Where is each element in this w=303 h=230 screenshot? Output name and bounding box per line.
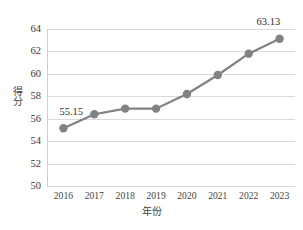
y-tick-label: 58 <box>31 91 42 101</box>
data-point-2017 <box>90 110 98 118</box>
y-axis-tick-labels: 5052545658606264 <box>0 0 43 230</box>
x-axis-title: 年份 <box>0 206 303 217</box>
y-tick-label: 54 <box>31 136 42 146</box>
series-markers <box>59 35 284 133</box>
y-tick-label: 50 <box>31 181 42 191</box>
gridline <box>48 186 295 187</box>
series-line-score <box>48 29 295 186</box>
data-label-2023: 63.13 <box>257 16 281 27</box>
line-chart: 得分 5052545658606264 20162017201820192020… <box>0 0 303 230</box>
data-point-2016 <box>59 124 67 132</box>
data-point-2022 <box>244 49 252 57</box>
data-point-2020 <box>183 90 191 98</box>
data-point-2021 <box>214 71 222 79</box>
y-tick-label: 52 <box>31 159 42 169</box>
y-tick-label: 60 <box>31 69 42 79</box>
y-tick-label: 64 <box>31 24 42 34</box>
x-tick-label: 2023 <box>260 191 300 201</box>
y-tick-label: 56 <box>31 114 42 124</box>
plot-area <box>48 29 295 186</box>
data-point-2023 <box>275 35 283 43</box>
data-point-2018 <box>121 104 129 112</box>
data-label-2016: 55.15 <box>59 106 83 117</box>
y-tick-label: 62 <box>31 46 42 56</box>
data-point-2019 <box>152 104 160 112</box>
